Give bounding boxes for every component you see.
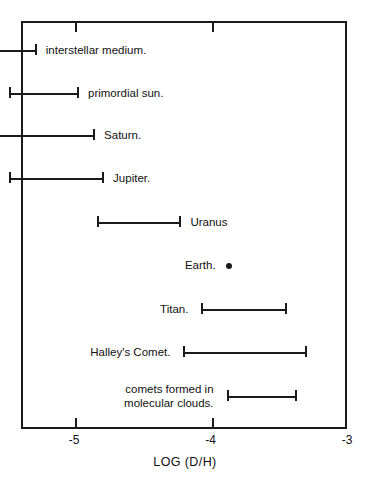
plot-frame: interstellar medium.primordial sun.Satur… [21,21,347,429]
range-cap-high [35,44,37,55]
range-cap-high [102,172,104,183]
x-tick-label--4: -4 [205,433,216,447]
range-cap-low [227,390,229,401]
x-axis-title: LOG (D/H) [0,455,370,469]
range-cap-high [93,129,95,140]
range-cap-low [9,87,11,98]
range-cap-high [285,303,287,314]
range-bar [97,222,181,224]
range-cap-high [77,87,79,98]
range-cap-low [9,172,11,183]
range-cap-low [97,216,99,227]
series-label: Earth. [185,259,216,272]
range-bar [0,50,37,52]
data-point-marker [226,263,232,269]
series-label: Uranus [190,216,227,229]
series-label: comets formed in molecular clouds. [124,383,213,410]
range-bar [9,178,104,180]
series-label: interstellar medium. [46,44,146,57]
x-tick-top--4 [212,23,214,32]
range-bar [9,93,79,95]
series-label: Titan. [160,303,188,316]
x-tick-bottom--4 [212,418,214,427]
range-bar [183,352,306,354]
series-label: Halley's Comet. [90,346,170,359]
range-cap-low [183,346,185,357]
range-bar [201,309,286,311]
range-cap-high [305,346,307,357]
figure-log-dh-chart: interstellar medium.primordial sun.Satur… [0,0,370,480]
range-bar [227,396,297,398]
range-cap-high [179,216,181,227]
range-cap-high [295,390,297,401]
series-label: Jupiter. [113,172,150,185]
range-bar [0,135,95,137]
series-label: primordial sun. [88,87,163,100]
x-tick-label--5: -5 [69,433,80,447]
x-tick-label--3: -3 [342,433,353,447]
x-tick-bottom--5 [75,418,77,427]
range-cap-low [201,303,203,314]
series-label: Saturn. [104,129,141,142]
x-tick-top--5 [75,23,77,32]
